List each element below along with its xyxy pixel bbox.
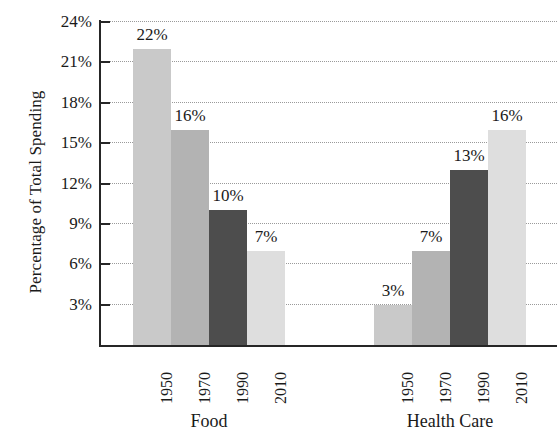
bar (450, 170, 488, 345)
bar-group-item: 16% (171, 0, 209, 345)
bar-chart: Percentage of Total Spending 3%6%9%12%15… (0, 0, 557, 446)
x-axis-year-label: 1990 (235, 344, 251, 404)
bar-value-label: 22% (136, 26, 167, 43)
bar-value-label: 16% (174, 107, 205, 124)
bar-value-label: 3% (382, 282, 405, 299)
bar-group-item: 16% (488, 0, 526, 345)
bar-group-item: 13% (450, 0, 488, 345)
bars-layer: 22%16%10%7%3%7%13%16% (0, 0, 557, 345)
bar-group-item: 3% (374, 0, 412, 345)
bar (171, 130, 209, 345)
x-axis-year-label: 1950 (400, 344, 416, 404)
x-axis-year-label: 2010 (514, 344, 530, 404)
bar-group-item: 22% (133, 0, 171, 345)
x-axis-year-label: 1970 (438, 344, 454, 404)
bar (412, 251, 450, 345)
x-axis-year-label: 1990 (476, 344, 492, 404)
group-label: Food (133, 412, 285, 430)
bar (133, 49, 171, 345)
bar (488, 130, 526, 345)
bar-group-item: 7% (247, 0, 285, 345)
x-axis-year-label: 2010 (273, 344, 289, 404)
bar-value-label: 7% (420, 228, 443, 245)
x-axis-year-label: 1950 (159, 344, 175, 404)
bar (374, 305, 412, 345)
bar-group-item: 7% (412, 0, 450, 345)
bar-value-label: 7% (255, 228, 278, 245)
group-label: Health Care (374, 412, 526, 430)
x-axis-year-label: 1970 (197, 344, 213, 404)
bar-value-label: 13% (453, 147, 484, 164)
bar-group-item: 10% (209, 0, 247, 345)
bar (247, 251, 285, 345)
bar (209, 210, 247, 345)
bar-value-label: 10% (212, 187, 243, 204)
bar-value-label: 16% (491, 107, 522, 124)
